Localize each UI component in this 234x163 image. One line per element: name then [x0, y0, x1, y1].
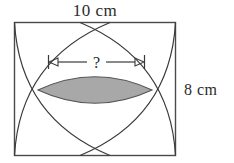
top-width-label: 10 cm — [73, 1, 118, 20]
right-height-label: 8 cm — [184, 81, 218, 98]
geometry-figure: ? 10 cm 8 cm — [0, 0, 234, 163]
unknown-width-label: ? — [93, 54, 100, 71]
figure-canvas: ? 10 cm 8 cm — [0, 0, 234, 163]
shaded-lens-region — [38, 77, 152, 104]
